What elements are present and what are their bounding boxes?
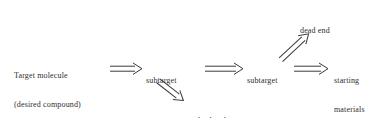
node-starting-materials: starting materials (334, 57, 365, 118)
node-starting-materials-line-2: materials (334, 105, 365, 115)
node-target-molecule: Target molecule (desired compound) (14, 52, 81, 118)
node-starting-materials-line-1: starting (334, 76, 365, 86)
node-dead-end-bottom-label: dead end (196, 116, 226, 118)
retrosynthetic-arrow-icon (110, 63, 144, 75)
retrosynthetic-arrow-icon (294, 63, 330, 75)
node-dead-end-bottom: dead end (196, 97, 226, 118)
retrosynthesis-diagram: Target molecule (desired compound) subta… (0, 0, 391, 118)
node-target-molecule-line-2: (desired compound) (14, 100, 81, 110)
node-target-molecule-line-1: Target molecule (14, 71, 81, 81)
node-subtarget-2: subtarget (247, 57, 278, 105)
node-subtarget-2-label: subtarget (247, 76, 278, 86)
retrosynthetic-arrow-icon (205, 63, 245, 75)
